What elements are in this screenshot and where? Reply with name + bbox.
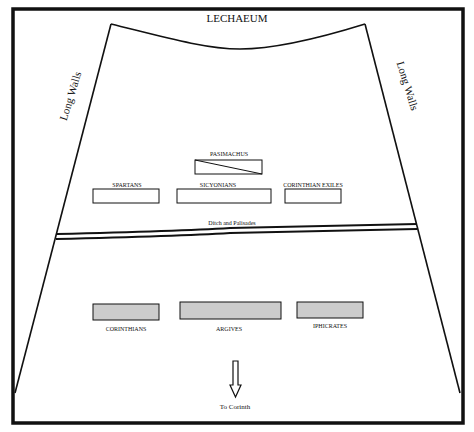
direction-label: To Corinth (220, 403, 251, 411)
unit-label-corinthians: CORINTHIANS (106, 326, 147, 332)
unit-box-spartans (93, 189, 159, 203)
unit-box-corinthians (93, 304, 159, 320)
unit-box-sicyonians (177, 189, 271, 203)
ditch-label: Ditch and Palisades (208, 220, 256, 226)
unit-box-corinthian-exiles (285, 189, 341, 203)
unit-label-sicyonians: SICYONIANS (200, 182, 236, 188)
unit-label-iphicrates: IPHICRATES (313, 323, 347, 329)
unit-box-iphicrates (297, 302, 363, 318)
unit-label-pasimachus: PASIMACHUS (210, 151, 248, 157)
unit-label-spartans: SPARTANS (112, 182, 141, 188)
unit-corinthian-exiles: CORINTHIAN EXILES (283, 182, 343, 203)
battle-diagram: LECHAEUM Long Walls Long Walls PASIMACHU… (0, 0, 474, 432)
title-lechaeum: LECHAEUM (206, 12, 267, 24)
diagram-canvas: LECHAEUM Long Walls Long Walls PASIMACHU… (0, 0, 474, 432)
unit-box-argives (180, 302, 281, 319)
unit-label-corinthian-exiles: CORINTHIAN EXILES (283, 182, 343, 188)
unit-label-argives: ARGIVES (216, 326, 242, 332)
